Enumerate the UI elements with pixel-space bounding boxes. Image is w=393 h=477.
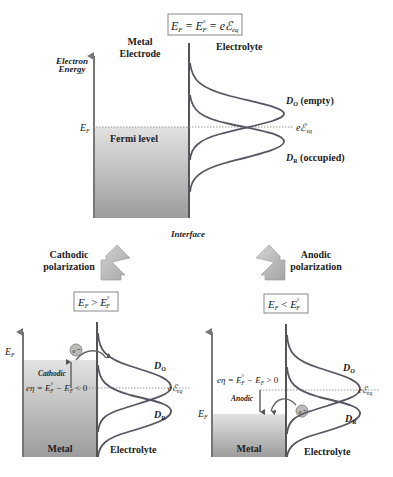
anodic-polarization-label-1: Anodic	[301, 249, 332, 260]
electrochemistry-diagram: EF = E°F = eℰeq Metal Electrode Electrol…	[0, 0, 393, 477]
anodic-ef-label: EF	[197, 408, 208, 420]
cathodic-electron-label: e⁻	[72, 347, 80, 355]
do-curve	[190, 63, 284, 160]
cathodic-polarization-label-1: Cathodic	[50, 249, 89, 260]
cathodic-electrolyte-label: Electrolyte	[110, 444, 157, 455]
anodic-panel: EF < E°F EF e⁻ eη = E°F − EF > 0 Anodic …	[197, 294, 380, 457]
dr-curve	[190, 95, 284, 192]
axis-label-energy: Energy	[58, 64, 87, 74]
anodic-eq-label: eℰeq	[358, 385, 372, 396]
anodic-process-label: Anodic	[230, 394, 254, 403]
anodic-do-label: DO	[342, 362, 355, 374]
electrolyte-label: Electrolyte	[216, 41, 263, 52]
cathodic-overpotential: eη = E°F − EF < 0	[26, 382, 88, 394]
metal-label: Metal	[128, 36, 153, 47]
cathodic-do-label: DO	[153, 360, 166, 372]
electrode-label: Electrode	[120, 48, 161, 59]
anodic-electrolyte-label: Electrolyte	[304, 446, 351, 457]
cathodic-process-label: Cathodic	[38, 369, 67, 378]
anodic-dr-label: DR	[344, 413, 357, 425]
anodic-metal-label: Metal	[237, 443, 262, 454]
cathodic-eq-label: eℰeq	[168, 383, 182, 394]
interface-label: Interface	[170, 229, 205, 239]
ef-label: EF	[79, 122, 90, 134]
anodic-arrow-icon	[256, 245, 285, 280]
cathodic-condition: EF > E°F	[77, 296, 110, 309]
anodic-overpotential: eη = E°F − EF > 0	[217, 374, 279, 386]
anodic-electron-transfer-arrow	[271, 399, 296, 411]
cathodic-arrow-icon	[101, 245, 130, 280]
cathodic-dr-label: DR	[153, 409, 166, 421]
cathodic-ef-label: EF	[4, 346, 15, 358]
cathodic-metal-label: Metal	[48, 443, 73, 454]
dr-label: DR (occupied)	[285, 152, 345, 164]
top-diagram: EF = E°F = eℰeq Metal Electrode Electrol…	[55, 14, 345, 239]
cathodic-panel: EF > E°F EF e⁻ Cathodic eη = E°F − EF < …	[4, 292, 190, 457]
anodic-polarization-label-2: polarization	[290, 261, 342, 272]
anodic-condition: EF < E°F	[267, 298, 300, 311]
cathodic-polarization-label-2: polarization	[43, 261, 95, 272]
eq-energy-label: eℰeq	[296, 122, 312, 134]
fermi-level-label: Fermi level	[110, 133, 158, 144]
do-label: DO (empty)	[285, 95, 334, 107]
polarization-arrows: Cathodic polarization Anodic polarizatio…	[43, 245, 342, 280]
